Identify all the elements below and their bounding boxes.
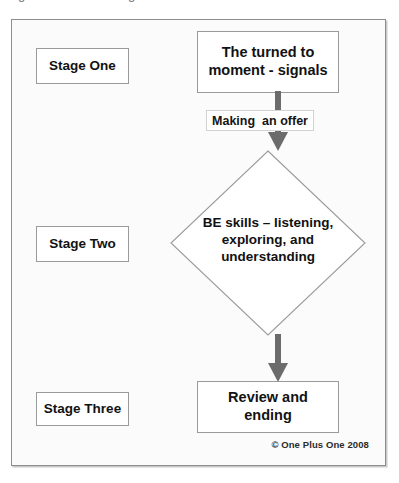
- stage-three-label: Stage Three: [44, 401, 121, 417]
- diamond-text: BE skills – listening, exploring, and un…: [187, 215, 349, 266]
- stage-one-label: Stage One: [49, 58, 116, 74]
- edge-label-part-1: Making: [212, 114, 255, 128]
- diamond-line-1: BE skills – listening,: [203, 215, 334, 230]
- clipped-glyph-2: g: [128, 0, 135, 2]
- clipped-glyph-1: g: [18, 0, 25, 2]
- top-process-box: The turned to moment - signals: [197, 31, 339, 93]
- edge-label-part-2: an offer: [262, 114, 308, 128]
- edge-label-making-an-offer: Making an offer: [206, 110, 314, 131]
- stage-two-box: Stage Two: [36, 226, 129, 262]
- decision-diamond: BE skills – listening, exploring, and un…: [169, 149, 367, 337]
- top-process-line-1: The turned to: [222, 44, 315, 60]
- bottom-process-label: Review and ending: [204, 389, 332, 424]
- down-arrow-icon-two: [257, 334, 299, 384]
- copyright-notice: © One Plus One 2008: [271, 439, 369, 450]
- clipped-text-above-figure: g g: [0, 0, 399, 10]
- top-process-line-2: moment - signals: [208, 62, 327, 78]
- diamond-line-3: understanding: [221, 249, 315, 264]
- bottom-process-box: Review and ending: [197, 381, 339, 433]
- stage-three-box: Stage Three: [36, 392, 129, 426]
- stage-two-label: Stage Two: [49, 236, 116, 252]
- stage-one-box: Stage One: [36, 48, 129, 84]
- diagram-frame: Stage One Stage Two Stage Three The turn…: [11, 19, 386, 466]
- diamond-line-2: exploring, and: [222, 232, 314, 247]
